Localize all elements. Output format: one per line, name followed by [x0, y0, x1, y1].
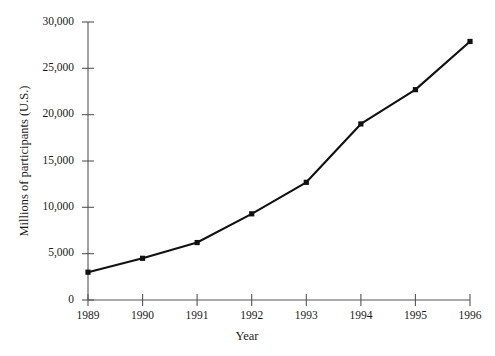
x-tick-label: 1990 — [131, 309, 154, 321]
y-tick-label: 25,000 — [42, 61, 74, 74]
x-tick-label: 1995 — [404, 309, 427, 321]
data-point — [413, 87, 418, 92]
x-axis-title: Year — [235, 329, 259, 343]
y-tick-label: 0 — [68, 293, 74, 305]
series-markers — [85, 39, 472, 275]
data-series-line — [85, 39, 472, 275]
x-tick-label: 1994 — [349, 309, 372, 321]
y-axis-tick-labels: 30,000 25,000 20,000 15,000 10,000 5,000… — [42, 15, 74, 305]
x-tick-label: 1989 — [77, 309, 100, 321]
y-tick-label: 15,000 — [42, 154, 74, 167]
y-axis-title: Millions of participants (U.S.) — [17, 85, 31, 236]
data-point — [249, 211, 254, 216]
x-axis-tick-labels: 1989 1990 1991 1992 1993 1994 1995 1996 — [77, 309, 482, 321]
x-tick-label: 1991 — [186, 309, 209, 321]
data-point — [304, 180, 309, 185]
data-point — [140, 256, 145, 261]
x-tick-label: 1996 — [459, 309, 482, 321]
series-polyline — [88, 41, 470, 272]
line-chart: 30,000 25,000 20,000 15,000 10,000 5,000… — [0, 0, 495, 356]
y-tick-label: 20,000 — [42, 107, 74, 120]
data-point — [467, 39, 472, 44]
data-point — [195, 240, 200, 245]
y-tick-label: 5,000 — [48, 246, 74, 259]
data-point — [85, 270, 90, 275]
y-tick-label: 30,000 — [42, 15, 74, 28]
data-point — [358, 121, 363, 126]
y-tick-label: 10,000 — [42, 200, 74, 213]
x-tick-label: 1992 — [240, 309, 263, 321]
x-tick-label: 1993 — [295, 309, 318, 321]
chart-canvas: 30,000 25,000 20,000 15,000 10,000 5,000… — [0, 0, 495, 356]
